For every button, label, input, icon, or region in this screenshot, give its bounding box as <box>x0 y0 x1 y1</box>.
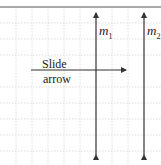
grid-diagram <box>0 0 161 165</box>
label-m1-subscript: 1 <box>108 32 112 41</box>
grid <box>0 7 161 165</box>
label-m2: m2 <box>147 25 160 43</box>
slide-label: Slide <box>42 58 67 70</box>
label-m2-subscript: 2 <box>156 32 160 41</box>
label-m1: m1 <box>99 25 112 43</box>
label-m1-name: m <box>99 23 108 38</box>
arrow-label: arrow <box>43 73 71 85</box>
label-m2-name: m <box>147 23 156 38</box>
